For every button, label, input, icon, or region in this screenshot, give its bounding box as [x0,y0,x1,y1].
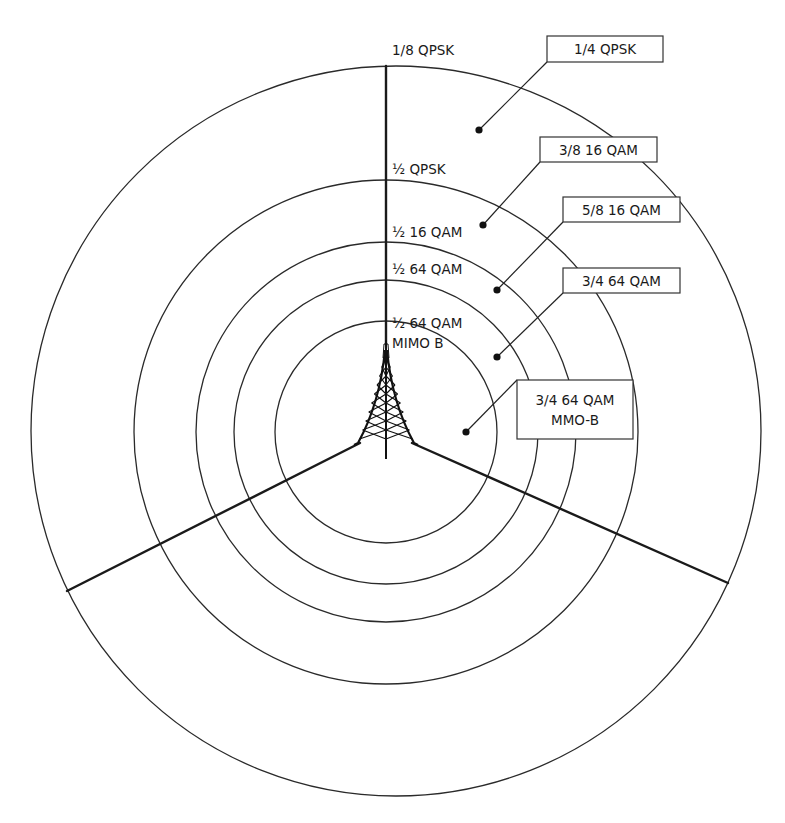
label-half-64qam: ½ 64 QAM [392,261,462,277]
label-half-qpsk: ½ QPSK [392,161,447,177]
sector-line-southeast [412,443,728,583]
label-half-64qam-mimo-line2: MIMO B [392,335,443,351]
leader-line [497,222,563,290]
callout-label: 3/4 64 QAM [582,273,661,289]
leader-line [479,62,547,130]
label-half-64qam-mimo-line1: ½ 64 QAM [392,315,462,331]
location-dot [462,428,469,435]
leader-line [466,380,517,432]
callout-3-4-64qam: 3/4 64 QAM [493,268,680,361]
leader-line [497,293,563,357]
callout-box [517,380,633,439]
coverage-diagram: 1/8 QPSK½ QPSK½ 16 QAM½ 64 QAM½ 64 QAMMI… [0,0,785,823]
mode-labels-on-axis: 1/8 QPSK½ QPSK½ 16 QAM½ 64 QAM½ 64 QAMMI… [392,42,462,351]
location-dot [475,126,482,133]
tower-leg-left [358,350,385,443]
callout-label: 5/8 16 QAM [582,202,661,218]
transmitter-tower-icon [354,340,418,459]
location-dot [493,286,500,293]
location-dot [479,221,486,228]
leader-line [483,162,540,225]
mode-callouts: 1/4 QPSK3/8 16 QAM5/8 16 QAM3/4 64 QAM3/… [462,36,680,439]
location-dot [493,353,500,360]
callout-1-4-qpsk: 1/4 QPSK [475,36,663,134]
callout-label: 1/4 QPSK [574,41,637,57]
callout-label: 3/8 16 QAM [559,142,638,158]
tower-leg-right [387,350,414,443]
sector-line-southwest [67,443,360,591]
callout-label: 3/4 64 QAM [536,392,615,408]
callout-label: MMO-B [551,412,599,428]
label-half-16qam: ½ 16 QAM [392,224,462,240]
label-1-8-qpsk: 1/8 QPSK [392,42,455,58]
